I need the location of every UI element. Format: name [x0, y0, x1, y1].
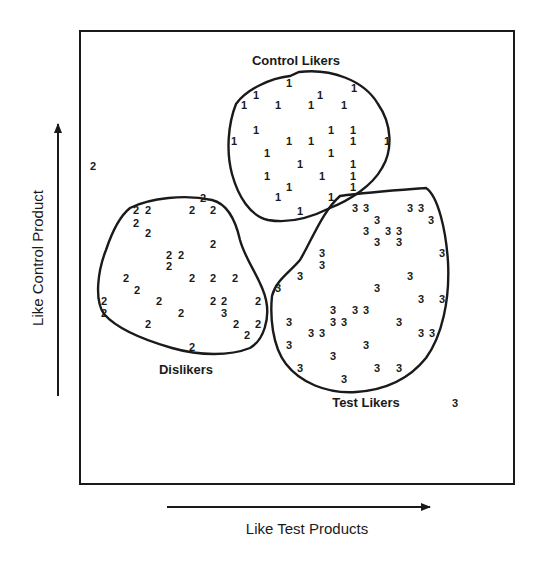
data-point: 2 [101, 308, 107, 319]
diagram-lines [0, 0, 544, 562]
data-point: 3 [297, 363, 303, 374]
y-axis-label: Like Control Product [29, 190, 46, 326]
data-point: 3 [330, 317, 336, 328]
data-point: 1 [308, 100, 314, 111]
data-point: 3 [352, 305, 358, 316]
data-point: 3 [286, 317, 292, 328]
data-point: 2 [255, 296, 261, 307]
data-point: 2 [233, 319, 239, 330]
data-point: 1 [351, 83, 357, 94]
data-point: 3 [330, 351, 336, 362]
test-likers-label: Test Likers [332, 395, 400, 410]
data-point: 2 [210, 273, 216, 284]
data-point: 2 [166, 261, 172, 272]
data-point: 2 [200, 193, 206, 204]
data-point: 3 [428, 215, 434, 226]
data-point: 3 [407, 203, 413, 214]
x-axis-label: Like Test Products [246, 520, 368, 537]
cluster-diagram: 1111111111111111111111111111 22222222222… [0, 0, 544, 562]
data-point: 3 [308, 328, 314, 339]
data-point: 1 [264, 148, 270, 159]
data-point: 1 [384, 136, 390, 147]
data-point: 1 [328, 125, 334, 136]
data-point: 3 [319, 328, 325, 339]
data-point: 1 [308, 136, 314, 147]
data-point: 1 [241, 100, 247, 111]
data-point: 3 [439, 248, 445, 259]
data-point: 1 [231, 136, 237, 147]
data-point: 3 [363, 203, 369, 214]
data-point: 1 [317, 90, 323, 101]
data-point: 3 [396, 317, 402, 328]
data-point: 2 [101, 296, 107, 307]
data-point: 3 [374, 215, 380, 226]
data-point: 1 [319, 171, 325, 182]
data-point: 1 [341, 100, 347, 111]
data-point: 3 [418, 328, 424, 339]
data-point: 2 [189, 342, 195, 353]
data-point: 3 [407, 271, 413, 282]
data-point: 1 [286, 136, 292, 147]
data-point: 3 [418, 203, 424, 214]
data-point: 3 [341, 374, 347, 385]
outlier-point: 2 [90, 161, 96, 172]
data-point: 2 [145, 228, 151, 239]
data-point: 3 [418, 294, 424, 305]
data-point: 1 [253, 125, 259, 136]
data-point: 3 [439, 294, 445, 305]
data-point: 3 [396, 237, 402, 248]
data-point: 3 [363, 226, 369, 237]
data-point: 2 [232, 273, 238, 284]
data-point: 2 [210, 205, 216, 216]
data-point: 1 [286, 182, 292, 193]
data-point: 3 [374, 363, 380, 374]
data-point: 3 [319, 248, 325, 259]
data-point: 2 [189, 205, 195, 216]
dislikers-label: Dislikers [159, 362, 213, 377]
data-point: 3 [374, 283, 380, 294]
data-point: 1 [297, 206, 303, 217]
data-point: 3 [275, 283, 281, 294]
data-point: 2 [134, 285, 140, 296]
data-point: 1 [297, 159, 303, 170]
data-point: 2 [244, 330, 250, 341]
data-point: 2 [133, 218, 139, 229]
data-point: 1 [328, 148, 334, 159]
data-point: 3 [363, 305, 369, 316]
data-point: 3 [396, 363, 402, 374]
data-point: 3 [374, 237, 380, 248]
data-point: 1 [350, 182, 356, 193]
data-point: 3 [363, 340, 369, 351]
data-point: 2 [255, 319, 261, 330]
data-point: 2 [178, 250, 184, 261]
data-point: 3 [429, 328, 435, 339]
data-point: 2 [145, 205, 151, 216]
data-point: 2 [210, 239, 216, 250]
data-point: 1 [253, 90, 259, 101]
data-point: 2 [156, 296, 162, 307]
data-point: 3 [341, 317, 347, 328]
data-point: 1 [350, 159, 356, 170]
data-point: 1 [286, 78, 292, 89]
data-point: 3 [330, 305, 336, 316]
data-point: 2 [189, 273, 195, 284]
data-point: 3 [221, 308, 227, 319]
data-point: 2 [145, 319, 151, 330]
outlier-point: 3 [452, 398, 458, 409]
data-point: 1 [350, 136, 356, 147]
data-point: 3 [319, 260, 325, 271]
data-point: 3 [286, 340, 292, 351]
data-point: 3 [352, 203, 358, 214]
data-point: 1 [275, 100, 281, 111]
control-likers-label: Control Likers [252, 53, 340, 68]
data-point: 2 [133, 205, 139, 216]
data-point: 1 [264, 171, 270, 182]
data-point: 1 [275, 192, 281, 203]
data-point: 2 [221, 296, 227, 307]
data-point: 3 [385, 226, 391, 237]
data-point: 2 [178, 308, 184, 319]
data-point: 2 [123, 273, 129, 284]
data-point: 3 [297, 271, 303, 282]
data-point: 2 [210, 296, 216, 307]
data-point: 1 [328, 192, 334, 203]
